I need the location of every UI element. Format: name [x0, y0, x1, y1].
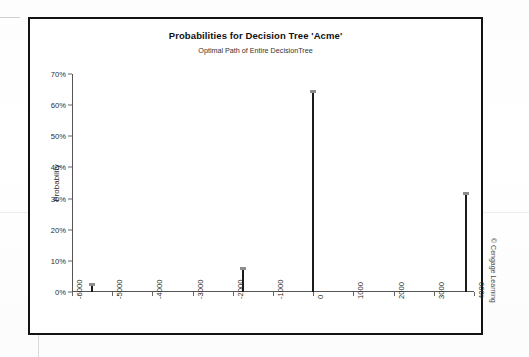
- data-spike-cap: [89, 283, 95, 286]
- x-tick-label: 0: [316, 295, 325, 299]
- x-tick-label: -6000: [75, 280, 84, 299]
- x-tick-mark: [72, 292, 73, 296]
- x-tick-label: 4000: [477, 282, 486, 299]
- data-spike-cap: [240, 267, 246, 270]
- data-spike: [91, 286, 93, 292]
- x-tick-label: -4000: [155, 280, 164, 299]
- x-tick-mark: [193, 292, 194, 296]
- chart-frame: Probabilities for Decision Tree 'Acme' O…: [28, 17, 483, 335]
- data-spike-cap: [463, 192, 469, 195]
- x-tick-mark: [112, 292, 113, 296]
- x-tick-label: -1000: [276, 280, 285, 299]
- y-tick-mark: [68, 105, 72, 106]
- data-spike: [465, 195, 467, 292]
- x-tick-mark: [273, 292, 274, 296]
- y-tick-mark: [68, 229, 72, 230]
- y-tick-mark: [68, 167, 72, 168]
- x-tick-mark: [233, 292, 234, 296]
- y-tick-mark: [68, 260, 72, 261]
- x-tick-mark: [474, 292, 475, 296]
- chart-subtitle: Optimal Path of Entire DecisionTree: [30, 46, 481, 55]
- data-spike: [312, 93, 314, 292]
- y-tick-mark: [68, 74, 72, 75]
- data-spike: [242, 270, 244, 292]
- x-tick-label: 1000: [356, 282, 365, 299]
- x-tick-label: 2000: [397, 282, 406, 299]
- plot-area: Probability 0%10%20%30%40%50%60%70% -600…: [72, 74, 474, 292]
- x-tick-mark: [313, 292, 314, 296]
- y-tick-mark: [68, 136, 72, 137]
- x-tick-mark: [434, 292, 435, 296]
- chart-title: Probabilities for Decision Tree 'Acme': [30, 30, 481, 41]
- x-tick-label: -3000: [196, 280, 205, 299]
- x-tick-mark: [353, 292, 354, 296]
- x-tick-label: 3000: [437, 282, 446, 299]
- data-spike-cap: [310, 90, 316, 93]
- copyright-notice: © Cengage Learning: [490, 238, 497, 303]
- page-margin-line-horizontal: [0, 17, 20, 18]
- y-tick-mark: [68, 198, 72, 199]
- x-tick-mark: [394, 292, 395, 296]
- x-tick-mark: [152, 292, 153, 296]
- x-tick-label: -5000: [115, 280, 124, 299]
- y-axis-line: [72, 74, 73, 292]
